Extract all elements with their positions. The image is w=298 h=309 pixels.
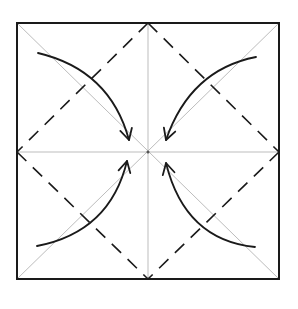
- center-point: [147, 151, 150, 154]
- background: [0, 0, 298, 309]
- origami-fold-diagram: [0, 0, 298, 309]
